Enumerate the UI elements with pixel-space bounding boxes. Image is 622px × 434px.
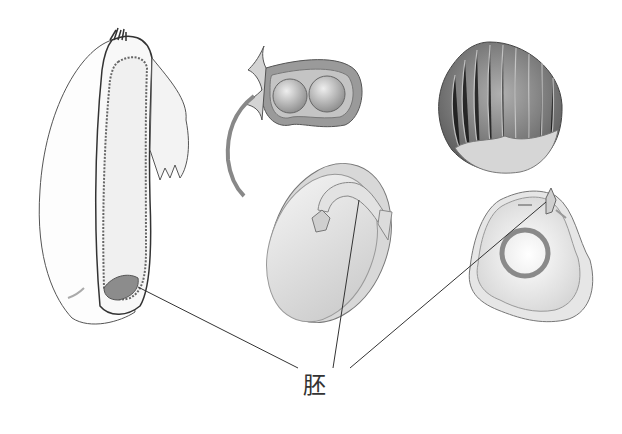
embryo-label: 胚	[303, 366, 326, 400]
nut-kernel	[469, 188, 592, 322]
grain-section	[39, 28, 188, 324]
nut-shell	[439, 42, 562, 173]
bean-seed	[247, 146, 412, 340]
